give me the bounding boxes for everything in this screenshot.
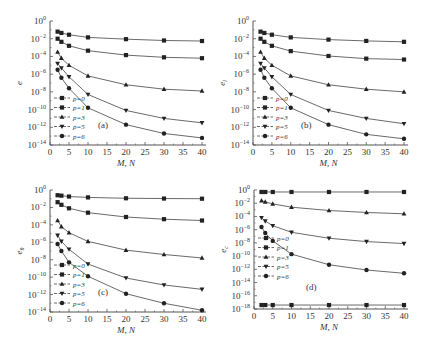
data-point [262,75,266,79]
data-point [56,200,60,204]
data-point [200,288,205,292]
x-tick-label: 30 [160,314,170,324]
y-tick-label: 10−10 [28,271,46,282]
figure: 051015202530354010010−210−410−610−810−10… [0,0,427,351]
data-point [326,38,330,42]
data-point [162,217,166,221]
x-tick-label: 30 [160,147,170,157]
data-point [259,303,263,307]
data-point [124,215,128,219]
y-axis-label: ec [218,246,229,253]
y-tick-label: 10−4 [31,219,46,230]
y-tick-label: 10−8 [31,86,46,97]
chart-panel-c: 051015202530354010010−210−410−610−810−10… [14,184,207,335]
data-point [271,239,275,243]
data-point [86,195,90,199]
y-tick-label: 100 [34,184,46,195]
data-point [327,190,331,194]
panel-label: (b) [301,120,312,130]
x-tick-label: 40 [198,147,208,157]
data-point [124,292,128,296]
data-point [259,198,264,202]
y-tick-label: 10−2 [31,201,46,212]
legend-marker [264,245,268,249]
data-point [86,211,90,215]
data-point [67,206,71,210]
x-axis-label: M, N [116,325,136,335]
data-point [258,49,263,53]
legend-label: p=1 [275,104,288,112]
series-line [58,202,202,220]
data-point [402,122,407,126]
legend-label: p=5 [72,290,85,298]
series-p1 [56,200,205,222]
data-point [263,303,267,307]
data-point [86,73,91,77]
series-line [261,39,404,60]
chart-panel-b: 051015202530354010010−210−410−610−810−10… [217,15,409,168]
y-tick-label: 10−8 [235,237,250,248]
legend-label: p=6 [72,133,85,141]
x-tick-label: 20 [122,147,132,157]
y-tick-label: 10−14 [231,139,249,150]
data-point [326,122,330,126]
chart-panel-a: 051015202530354010010−210−410−610−810−10… [14,15,207,168]
legend-label: p=0 [72,262,85,270]
data-point [402,271,406,275]
data-point [162,196,166,200]
x-tick-label: 35 [179,147,189,157]
data-point [56,37,60,41]
legend-label: p=1 [72,104,85,112]
data-point [288,73,293,77]
series-p1 [259,303,406,307]
x-tick-label: 15 [103,147,113,157]
y-tick-label: 10−2 [235,197,250,208]
data-point [55,234,60,238]
data-point [402,40,406,44]
data-point [67,44,71,48]
data-point [200,39,204,43]
series-p1 [56,37,205,61]
data-point [200,121,205,125]
x-tick-label: 15 [103,314,113,324]
x-axis-label: M, N [319,158,339,168]
x-tick-label: 15 [305,147,315,157]
y-tick-label: 10−10 [232,250,250,261]
data-point [56,193,60,197]
data-point [402,57,406,61]
y-tick-label: 100 [237,15,249,26]
legend-label: p=6 [72,300,85,308]
x-tick-label: 20 [325,311,335,321]
data-point [262,56,267,60]
data-point [67,260,71,264]
panel-label: (a) [98,120,108,130]
data-point [402,303,406,307]
data-point [270,44,274,48]
data-point [263,219,268,223]
data-point [364,39,368,43]
data-point [289,252,293,256]
data-point [326,54,330,58]
data-point [364,57,368,61]
legend-marker [60,272,64,276]
y-tick-label: 10−6 [31,68,46,79]
data-point [124,37,128,41]
legend-label: p=1 [276,244,289,252]
data-point [259,225,263,229]
data-point [55,218,60,222]
x-tick-label: 5 [270,147,275,157]
data-point [262,40,266,44]
legend-label: p=3 [72,114,85,122]
data-point [289,190,293,194]
data-point [86,49,90,53]
legend-label: p=0 [276,235,289,243]
y-tick-label: 10−4 [235,210,250,221]
series-p3 [259,198,406,216]
y-axis-label: el [217,80,228,86]
data-point [56,30,60,34]
y-tick-label: 10−12 [28,121,46,132]
data-point [67,86,71,90]
y-tick-label: 10−14 [28,306,46,317]
y-tick-label: 10−6 [234,68,249,79]
data-point [327,303,331,307]
